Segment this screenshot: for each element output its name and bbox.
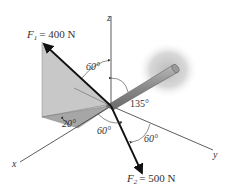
z-axis-label: z [106, 12, 111, 23]
y-axis [111, 106, 213, 150]
f1-label: F1= 400 N [26, 28, 75, 42]
angle-label-f2-y: 60° [144, 133, 158, 144]
x-axis-label: x [11, 158, 17, 169]
f2-label: F2= 500 N [126, 172, 175, 186]
force-diagram: F1= 400 N F2= 500 N z x y 60° 20° 135° 6… [0, 0, 229, 194]
force-f2-arrow [111, 106, 142, 173]
angle-label-f1-base: 20° [62, 118, 76, 129]
y-axis-label: y [212, 149, 218, 160]
angle-label-f2-x: 60° [97, 125, 111, 136]
angle-label-pole: 135° [130, 98, 149, 109]
angle-arc-pole [111, 78, 128, 92]
angle-label-f1-z: 60° [86, 61, 100, 72]
